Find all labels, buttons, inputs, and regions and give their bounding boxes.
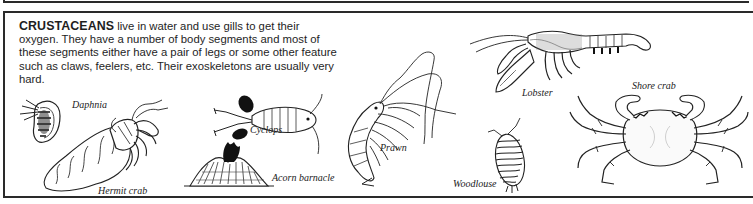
acorn-barnacle-label: Acorn barnacle [272,172,335,183]
section-heading: CRUSTACEANS [19,19,114,33]
prawn-label: Prawn [380,142,407,153]
lobster-illustration [470,28,656,98]
prawn-illustration [328,48,458,190]
hermit-crab-label: Hermit crab [98,185,147,196]
acorn-barnacle-illustration [184,140,276,190]
previous-panel-border [3,0,749,3]
intro-paragraph: CRUSTACEANS live in water and use gills … [19,20,339,86]
shore-crab-label: Shore crab [632,80,676,91]
shore-crab-illustration [570,92,748,192]
woodlouse-label: Woodlouse [453,178,497,189]
lobster-label: Lobster [522,87,553,98]
hermit-crab-illustration [40,100,170,196]
cyclops-label: Cyclops [250,124,282,135]
